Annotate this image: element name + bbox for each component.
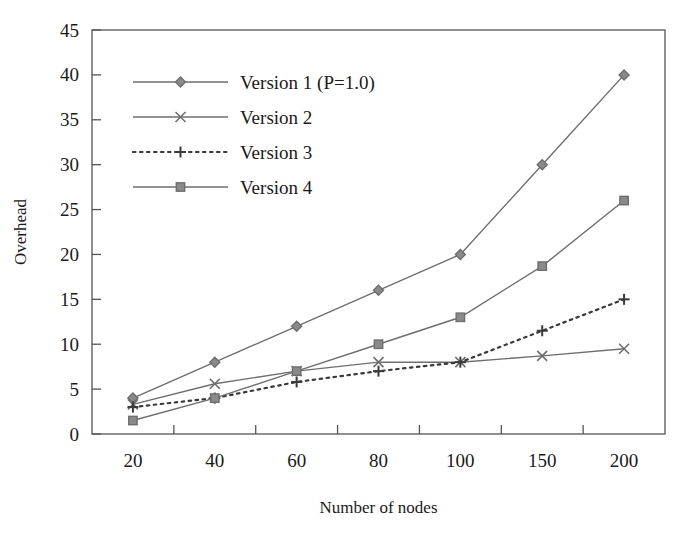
overhead-line-chart: 051015202530354045 20406080100150200 Ver… xyxy=(0,0,697,541)
y-tick-label: 0 xyxy=(70,424,80,445)
legend-entry-4: Version 4 xyxy=(133,177,313,198)
y-axis-tick-labels: 051015202530354045 xyxy=(60,20,79,445)
y-tick-label: 45 xyxy=(60,20,79,41)
legend-label: Version 3 xyxy=(240,142,312,163)
x-axis-tick-marks xyxy=(174,425,583,434)
x-tick-label: 100 xyxy=(446,450,475,471)
marker-square xyxy=(620,196,628,204)
y-tick-label: 5 xyxy=(70,379,80,400)
x-tick-label: 150 xyxy=(528,450,557,471)
series-line xyxy=(133,75,624,398)
legend-entry-2: Version 2 xyxy=(133,107,312,128)
marker-square xyxy=(129,416,137,424)
y-tick-label: 25 xyxy=(60,199,79,220)
series-4 xyxy=(129,196,629,424)
x-tick-label: 20 xyxy=(123,450,142,471)
y-tick-label: 10 xyxy=(60,334,79,355)
x-tick-label: 200 xyxy=(610,450,639,471)
marker-square xyxy=(211,394,219,402)
marker-plus xyxy=(175,147,186,158)
y-tick-label: 30 xyxy=(60,154,79,175)
marker-plus xyxy=(373,366,384,377)
y-axis-title: Overhead xyxy=(11,198,30,265)
series-3 xyxy=(127,294,629,413)
marker-plus xyxy=(291,376,302,387)
marker-plus xyxy=(619,294,630,305)
legend-entry-1: Version 1 (P=1.0) xyxy=(133,72,375,94)
x-axis-title: Number of nodes xyxy=(319,498,437,517)
data-series-group xyxy=(127,70,629,425)
x-tick-label: 60 xyxy=(287,450,306,471)
x-axis-tick-labels: 20406080100150200 xyxy=(123,450,638,471)
chart-container: 051015202530354045 20406080100150200 Ver… xyxy=(0,0,697,541)
x-tick-label: 40 xyxy=(205,450,224,471)
series-1 xyxy=(128,70,629,403)
legend-label: Version 1 (P=1.0) xyxy=(240,72,375,94)
y-tick-label: 40 xyxy=(60,64,79,85)
y-tick-label: 35 xyxy=(60,109,79,130)
chart-legend: Version 1 (P=1.0)Version 2Version 3Versi… xyxy=(133,72,375,198)
y-tick-label: 20 xyxy=(60,244,79,265)
legend-label: Version 4 xyxy=(240,177,313,198)
marker-plus xyxy=(537,325,548,336)
legend-entry-3: Version 3 xyxy=(133,142,312,163)
series-line xyxy=(133,299,624,407)
marker-square xyxy=(456,313,464,321)
marker-diamond xyxy=(176,77,186,87)
marker-square xyxy=(176,183,184,191)
y-tick-label: 15 xyxy=(60,289,79,310)
series-line xyxy=(133,201,624,421)
y-axis-tick-marks xyxy=(92,30,101,434)
x-tick-label: 80 xyxy=(369,450,388,471)
marker-diamond xyxy=(292,321,302,331)
marker-square xyxy=(538,262,546,270)
legend-label: Version 2 xyxy=(240,107,312,128)
marker-diamond xyxy=(210,357,220,367)
marker-square xyxy=(292,367,300,375)
marker-square xyxy=(374,340,382,348)
marker-diamond xyxy=(374,285,384,295)
